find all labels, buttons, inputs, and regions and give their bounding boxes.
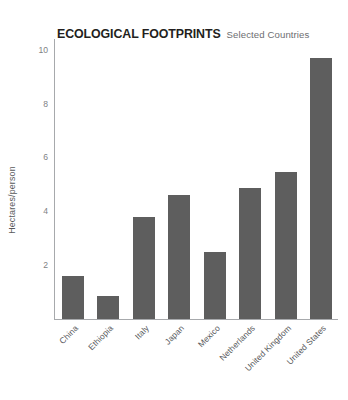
bars-layer: ChinaEthiopiaItalyJapanMexicoNetherlands…: [55, 39, 338, 319]
bar-slot: United States: [304, 39, 340, 319]
y-axis-tick-label: 2: [43, 260, 48, 270]
x-axis-tick-label: Italy: [133, 323, 151, 341]
bar-slot: United Kingdom: [268, 39, 304, 319]
y-axis-tick-label: 8: [43, 99, 48, 109]
x-axis-tick-label: Ethiopia: [86, 323, 115, 352]
bar-slot: Netherlands: [233, 39, 269, 319]
x-axis-tick-label: China: [57, 323, 80, 346]
y-axis-tick-label: 6: [43, 152, 48, 162]
bar-slot: Italy: [126, 39, 162, 319]
x-axis-line: [54, 319, 338, 320]
x-axis-tick-label: Japan: [163, 323, 187, 347]
y-axis-title: Hectares/person: [7, 166, 17, 234]
bar[interactable]: [310, 58, 332, 319]
bar[interactable]: [275, 172, 297, 319]
plot-area: 246810 ChinaEthiopiaItalyJapanMexicoNeth…: [54, 39, 338, 319]
bar[interactable]: [168, 195, 190, 319]
bar[interactable]: [62, 276, 84, 319]
ecological-footprints-bar-chart: ECOLOGICAL FOOTPRINTSSelected Countries …: [0, 0, 348, 400]
y-axis-tick-label: 4: [43, 206, 48, 216]
bar[interactable]: [204, 252, 226, 319]
bar-slot: Mexico: [197, 39, 233, 319]
bar[interactable]: [133, 217, 155, 319]
y-axis-tick-label: 10: [38, 45, 48, 55]
bar-slot: Ethiopia: [91, 39, 127, 319]
bar[interactable]: [97, 296, 119, 319]
x-axis-tick-label: Mexico: [196, 323, 222, 349]
bar-slot: Japan: [162, 39, 198, 319]
bar[interactable]: [239, 188, 261, 319]
bar-slot: China: [55, 39, 91, 319]
